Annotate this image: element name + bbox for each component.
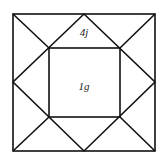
quilt-diagram: 4j 1g [0, 0, 168, 163]
label-center-square: 1g [79, 80, 91, 92]
label-top-triangle: 4j [80, 26, 89, 38]
corner-line-top-left [13, 14, 49, 48]
corner-line-bottom-right [120, 117, 155, 151]
corner-line-bottom-left [13, 117, 49, 151]
corner-line-top-right [120, 14, 155, 48]
